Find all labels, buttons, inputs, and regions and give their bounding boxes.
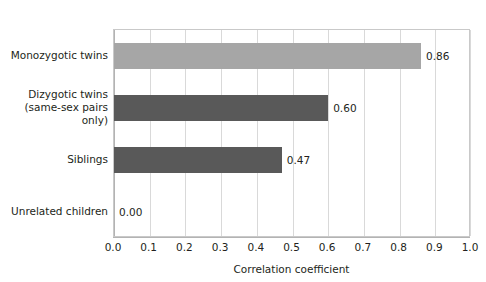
x-axis-tick-labels: 0.00.10.20.30.40.50.60.70.80.91.0 xyxy=(113,240,470,256)
x-axis-line xyxy=(113,237,470,238)
x-tick-label: 1.0 xyxy=(462,240,479,254)
x-tick-label: 0.1 xyxy=(140,240,157,254)
x-tick-label: 0.4 xyxy=(247,240,264,254)
gridline xyxy=(470,30,471,236)
bars-group: 0.860.600.470.00 xyxy=(114,30,469,236)
x-tick-label: 0.3 xyxy=(212,240,229,254)
plot-area: 0.860.600.470.00 xyxy=(113,29,470,237)
x-tick-label: 0.9 xyxy=(426,240,443,254)
category-label: Monozygotic twins xyxy=(0,49,108,62)
x-tick-label: 0.2 xyxy=(176,240,193,254)
x-tick-label: 0.6 xyxy=(319,240,336,254)
bar xyxy=(114,147,282,173)
x-tick-label: 0.5 xyxy=(283,240,300,254)
bar-value-label: 0.47 xyxy=(287,154,310,166)
category-label: Dizygotic twins (same-sex pairs only) xyxy=(0,88,108,127)
bar xyxy=(114,43,421,69)
category-label: Siblings xyxy=(0,153,108,166)
x-tick-label: 0.8 xyxy=(390,240,407,254)
x-tick-label: 0.0 xyxy=(105,240,122,254)
bar-value-label: 0.86 xyxy=(426,50,449,62)
category-axis-labels: Monozygotic twinsDizygotic twins (same-s… xyxy=(0,29,108,237)
bar-value-label: 0.00 xyxy=(119,206,142,218)
bar-value-label: 0.60 xyxy=(333,102,356,114)
bar xyxy=(114,95,328,121)
x-axis-title: Correlation coefficient xyxy=(113,262,470,276)
category-label: Unrelated children xyxy=(0,205,108,218)
x-tick-label: 0.7 xyxy=(355,240,372,254)
correlation-coefficient-bar-chart: Monozygotic twinsDizygotic twins (same-s… xyxy=(0,0,486,282)
